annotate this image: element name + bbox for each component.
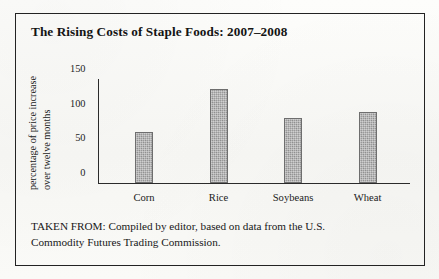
y-axis-title-line-1: percentage of price increase (27, 76, 38, 190)
figure-page: The Rising Costs of Staple Foods: 2007–2… (0, 0, 439, 279)
y-tick-label-50: 50 (75, 132, 85, 143)
source-note-line-1: TAKEN FROM: Compiled by editor, based on… (31, 219, 413, 235)
bar-rice (210, 89, 228, 182)
y-tick-label-0: 0 (80, 166, 85, 177)
x-axis-line (98, 183, 410, 184)
y-axis-line (98, 79, 99, 184)
plot-area: 0 50 100 150 Corn Rice Soybeans Wheat (98, 79, 410, 184)
bar-soybeans (284, 118, 302, 183)
y-tick-label-150: 150 (70, 63, 86, 74)
bar-corn (135, 132, 153, 183)
source-note-line-2: Commodity Futures Trading Commission. (31, 235, 413, 251)
y-tick-label-100: 100 (70, 97, 86, 108)
figure-title: The Rising Costs of Staple Foods: 2007–2… (31, 24, 287, 40)
x-category-label-wheat: Wheat (354, 192, 382, 203)
x-category-label-rice: Rice (209, 192, 228, 203)
bar-wheat (359, 112, 377, 183)
y-axis-title-line-2: over twelve months (41, 110, 52, 190)
x-category-label-corn: Corn (133, 192, 154, 203)
x-category-label-soybeans: Soybeans (273, 192, 314, 203)
y-axis-title: percentage of price increase over twelve… (28, 72, 70, 190)
source-note: TAKEN FROM: Compiled by editor, based on… (31, 219, 413, 250)
